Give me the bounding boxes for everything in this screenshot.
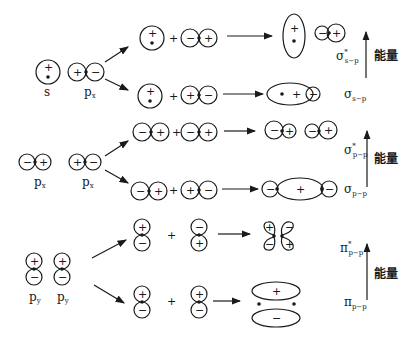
py-label: py (29, 290, 41, 305)
pi-pp-star-label: π*p−p (340, 240, 364, 257)
arrow-icon (105, 79, 128, 90)
arrow-icon (105, 170, 128, 183)
minus-sign: − (89, 156, 98, 169)
plus-sign: + (73, 156, 82, 169)
pi-pp-formation: + − + + − + − πp−p (134, 282, 367, 327)
plus-sign: + (204, 126, 213, 139)
minus-sign: − (285, 221, 294, 234)
minus-sign: − (186, 32, 195, 45)
minus-sign: − (186, 126, 195, 139)
s-orbital: + s (36, 60, 60, 99)
minus-sign: − (23, 156, 32, 169)
combine-plus: + (169, 184, 178, 197)
plus-sign: + (154, 185, 163, 198)
plus-sign: + (73, 66, 82, 79)
energy-label: 能量 (374, 48, 398, 63)
plus-sign: + (148, 27, 157, 40)
plus-sign: + (292, 88, 301, 101)
section-p-p-sigma: − + px + − px − + + − + (19, 121, 398, 200)
plus-sign: + (138, 221, 147, 234)
plus-sign: + (324, 124, 333, 137)
minus-sign: − (91, 66, 100, 79)
sigma-pp-formation: − + + + − − + − σp−p (131, 178, 368, 200)
minus-sign: − (318, 27, 327, 40)
minus-sign: − (204, 184, 213, 197)
plus-sign: + (156, 126, 165, 139)
pi-pp-star-formation: + − + − + + − − + π*p−p (134, 219, 364, 257)
px-label: px (34, 175, 46, 190)
minus-sign: − (138, 237, 147, 250)
minus-sign: − (195, 221, 204, 234)
section-p-p-pi: + − py + − py + − + − + (26, 219, 398, 327)
px-label: px (84, 85, 96, 100)
energy-label: 能量 (374, 266, 398, 281)
py-label: py (57, 290, 69, 305)
sigma-pp-star-label: σ*p−p (344, 142, 368, 159)
minus-sign: − (270, 124, 279, 137)
plus-sign: + (195, 237, 204, 250)
minus-sign: − (265, 238, 274, 251)
plus-sign: + (296, 183, 305, 196)
plus-sign: + (30, 255, 39, 268)
minus-sign: − (272, 312, 281, 325)
px-orbital-right: + − px (69, 154, 101, 190)
plus-sign: + (58, 255, 67, 268)
sigma-sp-formation: + + + − + − σs−p (138, 83, 367, 108)
sigma-pp-label: σp−p (344, 182, 368, 198)
s-label: s (44, 85, 50, 99)
plus-sign: + (265, 221, 274, 234)
plus-sign: + (332, 27, 341, 40)
minus-sign: − (204, 89, 213, 102)
sigma-pp-star-formation: − + + − + − + − + σ*p−p (133, 121, 368, 159)
plus-sign: + (44, 61, 53, 74)
minus-sign: − (136, 185, 145, 198)
arrow-icon (92, 240, 126, 258)
sigma-sp-star-label: σ*s−p (336, 48, 359, 65)
plus-sign: + (186, 89, 195, 102)
px-orbital-left: − + px (19, 154, 51, 190)
plus-sign: + (39, 156, 48, 169)
combine-plus: + (169, 90, 178, 103)
combine-plus: + (167, 229, 176, 242)
plus-sign: + (272, 285, 281, 298)
py-orbital-right: + − py (54, 253, 70, 305)
minus-sign: − (309, 88, 318, 101)
py-orbital-left: + − py (26, 253, 42, 305)
plus-sign: + (195, 288, 204, 301)
plus-sign: + (146, 85, 155, 98)
plus-sign: + (285, 238, 294, 251)
combine-plus: + (167, 295, 176, 308)
sigma-sp-star-formation: + + − + + − + σ*s−p (140, 14, 359, 65)
plus-sign: + (290, 22, 299, 35)
plus-sign: + (138, 288, 147, 301)
combine-plus: + (172, 126, 181, 139)
minus-sign: − (325, 183, 334, 196)
minus-sign: − (308, 125, 317, 138)
arrow-icon (105, 47, 128, 62)
mo-diagram: + s + − px + + − + + (0, 0, 414, 343)
arrow-icon (94, 285, 124, 303)
arrow-icon (105, 141, 128, 156)
plus-sign: + (186, 184, 195, 197)
plus-sign: + (285, 125, 294, 138)
energy-label: 能量 (374, 151, 398, 166)
minus-sign: − (138, 126, 147, 139)
minus-sign: − (266, 183, 275, 196)
combine-plus: + (169, 32, 178, 45)
pi-pp-label: πp−p (344, 295, 367, 311)
sigma-sp-label: σs−p (344, 87, 367, 103)
minus-sign: − (195, 304, 204, 317)
minus-sign: − (138, 304, 147, 317)
px-orbital: + − px (68, 63, 104, 100)
minus-sign: − (30, 271, 39, 284)
section-s-p: + s + − px + + − + + (36, 14, 398, 108)
minus-sign: − (58, 271, 67, 284)
px-label: px (82, 175, 94, 190)
plus-sign: + (204, 32, 213, 45)
